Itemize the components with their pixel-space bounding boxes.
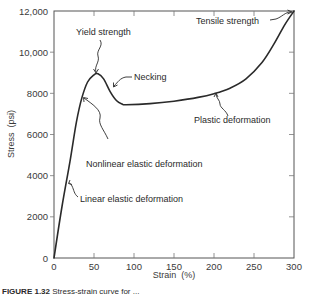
nonlinear-elastic-label: Nonlinear elastic deformation — [86, 159, 203, 169]
y-axis-title: Stress (psi) — [6, 110, 16, 158]
y-tick-label: 0 — [43, 253, 48, 264]
x-tick-label: 50 — [89, 261, 100, 272]
figure-caption: FIGURE 1.32 Stress-strain curve for ... — [2, 287, 139, 296]
yield-strength-label: Yield strength — [76, 27, 131, 37]
nonlinear-leader — [84, 98, 108, 139]
x-tick-label: 100 — [126, 261, 142, 272]
yield-leader — [96, 40, 102, 72]
x-axis-title: Strain (%) — [153, 270, 196, 280]
plastic-leader — [216, 94, 228, 116]
x-tick-label: 0 — [51, 261, 56, 272]
y-tick-label: 6000 — [27, 129, 48, 140]
x-tick-label: 300 — [286, 261, 302, 272]
linear-arrowhead — [69, 180, 73, 185]
linear-leader — [69, 183, 78, 197]
y-tick-label: 10,000 — [19, 47, 48, 58]
figure-number: FIGURE 1.32 — [2, 287, 50, 296]
axis-ticks — [50, 11, 294, 258]
necking-leader — [114, 77, 132, 86]
y-tick-label: 4000 — [27, 170, 48, 181]
linear-elastic-label: Linear elastic deformation — [80, 194, 183, 204]
stress-strain-chart: 0501001502002503000200040006000800010,00… — [0, 0, 310, 298]
y-tick-label: 12,000 — [19, 6, 48, 17]
tensile-strength-label: Tensile strength — [196, 16, 259, 26]
plot-frame — [54, 11, 294, 258]
x-tick-label: 200 — [206, 261, 222, 272]
necking-label: Necking — [134, 72, 167, 82]
figure-caption-text: Stress-strain curve for ... — [52, 287, 139, 296]
axis-tick-labels: 0501001502002503000200040006000800010,00… — [19, 6, 302, 273]
stress-strain-curve — [54, 11, 294, 258]
y-tick-label: 8000 — [27, 88, 48, 99]
x-tick-label: 250 — [246, 261, 262, 272]
y-tick-label: 2000 — [27, 211, 48, 222]
plastic-deformation-label: Plastic deformation — [194, 115, 271, 125]
